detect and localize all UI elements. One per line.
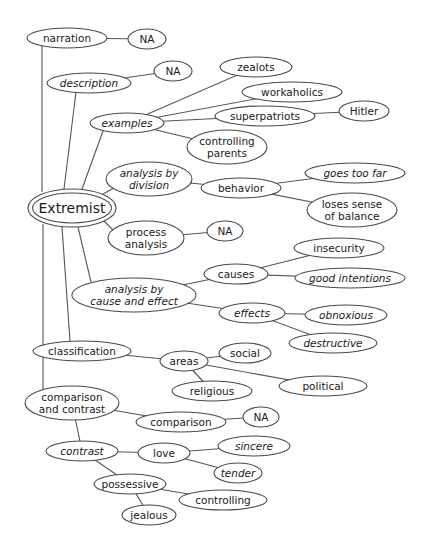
node-label: Hitler <box>350 105 379 117</box>
node-label: process <box>126 226 166 238</box>
node-label: behavior <box>218 182 265 194</box>
node-label: comparison <box>150 416 211 428</box>
edge-extremist-examples <box>82 131 103 189</box>
node-na3: NA <box>207 221 243 241</box>
node-label: sincere <box>235 440 273 452</box>
node-political: political <box>279 376 367 396</box>
node-causes: causes <box>204 264 268 284</box>
node-label: analysis by <box>120 167 180 179</box>
node-label: narration <box>43 32 91 44</box>
node-workaholics: workaholics <box>242 82 342 102</box>
extremist-cluster-diagram: narrationNAdescriptionNAexampleszealotsw… <box>0 0 423 557</box>
node-label: description <box>60 77 118 89</box>
node-examples: examples <box>90 113 164 133</box>
node-superpatriots: superpatriots <box>215 106 315 126</box>
node-label: possessive <box>101 478 158 490</box>
node-label: analysis <box>125 238 168 250</box>
node-label: NA <box>217 225 233 237</box>
node-destructive: destructive <box>289 333 377 353</box>
node-label: division <box>129 179 169 191</box>
node-religious: religious <box>172 381 252 401</box>
node-good-intentions: good intentions <box>295 268 405 288</box>
node-sincere: sincere <box>218 436 290 456</box>
node-controlling-parents: controllingparents <box>187 130 267 164</box>
node-process-analysis: processanalysis <box>108 221 184 255</box>
node-label: examples <box>102 117 153 129</box>
node-label: social <box>230 347 260 359</box>
node-label: zealots <box>237 61 274 73</box>
node-insecurity: insecurity <box>294 238 384 258</box>
node-label: of balance <box>325 210 380 222</box>
node-loses-balance: loses senseof balance <box>307 193 397 227</box>
node-love: love <box>138 443 190 463</box>
root-label: Extremist <box>39 200 107 216</box>
node-analysis-division: analysis bydivision <box>106 162 192 196</box>
node-tender: tender <box>214 463 262 483</box>
node-label: insecurity <box>313 242 365 254</box>
node-classification: classification <box>33 341 131 361</box>
node-na4: NA <box>243 407 279 427</box>
node-contrast: contrast <box>46 441 118 461</box>
node-label: destructive <box>303 337 362 349</box>
node-label: controlling <box>199 135 255 147</box>
node-comparison: comparison <box>136 412 226 432</box>
node-label: jealous <box>129 509 167 521</box>
node-zealots: zealots <box>220 57 292 77</box>
node-label: loses sense <box>322 198 383 210</box>
edge-extremist-classification <box>62 227 70 341</box>
node-na1: NA <box>128 29 166 49</box>
node-label: workaholics <box>261 86 323 98</box>
node-label: political <box>302 380 343 392</box>
node-label: NA <box>253 411 269 423</box>
node-label: religious <box>190 385 235 397</box>
node-label: love <box>153 447 175 459</box>
node-description: description <box>47 73 131 93</box>
node-na2: NA <box>154 61 192 81</box>
node-label: tender <box>221 467 256 479</box>
node-narration: narration <box>27 28 107 48</box>
edge-extremist-analysis_division <box>103 188 114 194</box>
node-hitler: Hitler <box>339 101 389 121</box>
node-label: controlling <box>195 494 251 506</box>
node-label: areas <box>170 355 199 367</box>
node-possessive: possessive <box>94 474 166 494</box>
node-social: social <box>219 343 271 363</box>
node-label: cause and effect <box>90 295 178 307</box>
node-jealous: jealous <box>122 505 176 525</box>
node-goes-too-far: goes too far <box>305 163 405 183</box>
node-label: analysis by <box>105 283 165 295</box>
node-comparison-contrast: comparisonand contrast <box>25 386 119 420</box>
node-controlling: controlling <box>179 490 267 510</box>
node-obnoxious: obnoxious <box>305 305 387 325</box>
node-label: obnoxious <box>319 309 373 321</box>
node-label: parents <box>207 147 247 159</box>
node-effects: effects <box>219 303 285 323</box>
edge-extremist-description <box>64 92 76 189</box>
node-label: NA <box>165 65 181 77</box>
node-label: goes too far <box>323 167 387 179</box>
node-label: good intentions <box>309 272 391 284</box>
node-analysis-cause-effect: analysis bycause and effect <box>72 278 196 312</box>
node-label: classification <box>48 345 116 357</box>
node-label: superpatriots <box>230 110 300 122</box>
diagram-nodes: narrationNAdescriptionNAexampleszealotsw… <box>25 28 405 525</box>
node-label: NA <box>139 33 155 45</box>
edge-extremist-process_analysis <box>104 221 113 230</box>
node-areas: areas <box>160 351 208 371</box>
node-label: and contrast <box>39 403 105 415</box>
edge-extremist-analysis_cause_effect <box>78 227 91 282</box>
node-label: comparison <box>41 391 102 403</box>
node-label: contrast <box>60 445 104 457</box>
root-node-extremist: Extremist <box>28 189 116 227</box>
node-label: effects <box>234 307 270 319</box>
node-behavior: behavior <box>201 178 281 198</box>
node-label: causes <box>218 268 254 280</box>
